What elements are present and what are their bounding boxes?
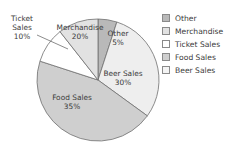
legend-label-beer-sales: Beer Sales — [175, 66, 215, 75]
chart-legend: Other Merchandise Ticket Sales Food Sale… — [162, 13, 223, 75]
pie-label-merchandise-name: Merchandise — [57, 23, 104, 32]
legend-label-other: Other — [175, 14, 197, 23]
pie-label-beer-sales-pct: 30% — [115, 78, 131, 87]
legend-swatch-beer-sales — [162, 66, 170, 74]
pie-label-ticket-sales-line2: Sales — [12, 23, 32, 32]
pie-label-ticket-sales-line1: Ticket — [10, 14, 33, 23]
legend-swatch-food-sales — [162, 53, 170, 61]
pie-chart-figure: Merchandise 20% Other 5% Beer Sales 30% … — [0, 0, 243, 149]
legend-swatch-ticket-sales — [162, 40, 170, 48]
legend-item-merchandise[interactable]: Merchandise — [162, 26, 223, 36]
pie-label-merchandise-pct: 20% — [72, 32, 88, 41]
pie-label-ticket-sales-pct: 10% — [14, 32, 30, 41]
pie-label-food-sales-name: Food Sales — [52, 93, 92, 102]
legend-swatch-other — [162, 14, 170, 22]
legend-label-ticket-sales: Ticket Sales — [175, 40, 220, 49]
pie-slices — [37, 19, 159, 141]
legend-label-merchandise: Merchandise — [175, 27, 223, 36]
legend-item-food-sales[interactable]: Food Sales — [162, 52, 223, 62]
legend-item-beer-sales[interactable]: Beer Sales — [162, 65, 223, 75]
pie-label-food-sales-pct: 35% — [64, 102, 80, 111]
legend-item-ticket-sales[interactable]: Ticket Sales — [162, 39, 223, 49]
legend-item-other[interactable]: Other — [162, 13, 223, 23]
pie-label-beer-sales-name: Beer Sales — [103, 69, 142, 78]
pie-label-other-name: Other — [108, 29, 130, 38]
legend-swatch-merchandise — [162, 27, 170, 35]
legend-label-food-sales: Food Sales — [175, 53, 216, 62]
pie-label-other-pct: 5% — [112, 38, 124, 47]
